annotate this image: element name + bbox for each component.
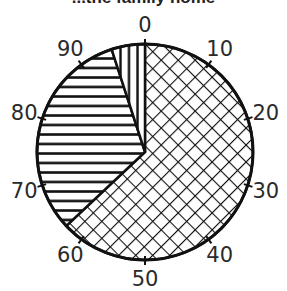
- tick-label-20: 20: [252, 101, 279, 125]
- tick-label-0: 0: [138, 13, 151, 37]
- tick-label-50: 50: [132, 267, 159, 291]
- tick-label-70: 70: [11, 179, 38, 203]
- tick-label-10: 10: [206, 37, 233, 61]
- tick-label-90: 90: [57, 37, 84, 61]
- tick-label-40: 40: [206, 243, 233, 267]
- tick-label-60: 60: [57, 243, 84, 267]
- tick-label-30: 30: [252, 179, 279, 203]
- pie-chart: 0102030405060708090: [0, 0, 287, 291]
- tick-label-80: 80: [11, 101, 38, 125]
